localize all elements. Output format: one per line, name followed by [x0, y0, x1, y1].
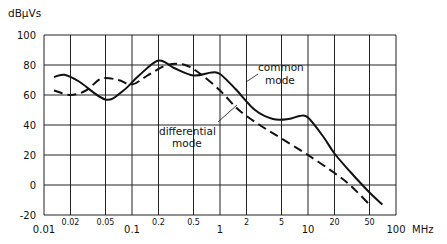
common-mode-curve	[54, 60, 382, 204]
y-tick-label: -20	[20, 210, 36, 221]
y-tick-label: 20	[23, 150, 36, 161]
emi-spectrum-chart: 100806040200-20 0.010.11101000.020.050.2…	[0, 0, 447, 244]
y-tick-label: 0	[30, 180, 36, 191]
x-tick-label-minor: 5	[279, 218, 284, 227]
x-tick-label-major: 1	[217, 224, 223, 235]
y-axis-label: dBµVs	[8, 7, 41, 19]
x-tick-label-minor: 0.5	[187, 218, 200, 227]
x-tick-label-major: 100	[386, 224, 405, 235]
y-tick-label: 40	[23, 120, 36, 131]
x-tick-label-minor: 0.02	[62, 218, 80, 227]
x-tick-label-minor: 0.2	[152, 218, 165, 227]
grid	[44, 35, 396, 215]
x-tick-label-minor: 50	[364, 218, 374, 227]
differential-mode-label-2: mode	[172, 137, 202, 149]
x-axis-unit: MHz	[412, 224, 433, 235]
y-tick-label: 60	[23, 90, 36, 101]
common-mode-label-2: mode	[265, 74, 295, 86]
common-mode-label-1: common	[258, 61, 304, 73]
x-tick-label-minor: 0.05	[97, 218, 115, 227]
x-tick-label-major: 0.1	[124, 224, 140, 235]
curves	[54, 60, 382, 204]
differential-mode-leader	[218, 105, 237, 122]
y-axis-ticks: 100806040200-20	[17, 30, 36, 221]
x-tick-label-major: 10	[302, 224, 315, 235]
x-axis-ticks: 0.010.11101000.020.050.20.5252050	[33, 218, 406, 235]
differential-mode-label-1: differential	[159, 125, 216, 137]
x-tick-label-minor: 2	[244, 218, 249, 227]
y-tick-label: 80	[23, 60, 36, 71]
y-tick-label: 100	[17, 30, 36, 41]
x-tick-label-major: 0.01	[33, 224, 55, 235]
common-mode-leader	[246, 74, 258, 82]
x-tick-label-minor: 20	[329, 218, 339, 227]
